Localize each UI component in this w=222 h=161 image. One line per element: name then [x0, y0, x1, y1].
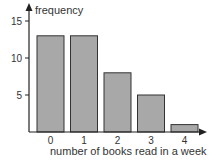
y-tick-label: 10 — [11, 53, 23, 64]
bar-chart: 51015 01234 frequency number of books re… — [0, 0, 222, 161]
y-axis-arrow-icon — [26, 3, 33, 11]
y-tick-label: 5 — [16, 90, 22, 101]
bar-1 — [71, 36, 98, 132]
y-ticks: 51015 — [11, 16, 29, 101]
bars — [37, 36, 198, 132]
bar-0 — [37, 36, 64, 132]
bar-4 — [171, 125, 198, 132]
bar-3 — [138, 95, 165, 132]
x-axis-arrow-icon — [199, 129, 207, 136]
y-tick-label: 15 — [11, 16, 23, 27]
bar-2 — [104, 73, 131, 132]
y-axis-title: frequency — [35, 4, 84, 16]
x-axis-title: number of books read in a week — [50, 145, 207, 157]
